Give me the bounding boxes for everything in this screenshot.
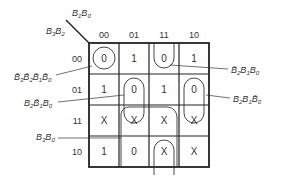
term-b2nb1b0: B2B̄1B0 <box>24 98 53 109</box>
term-b2b1nb0: B2B1B̄0 <box>233 94 262 105</box>
svg-text:0: 0 <box>191 84 197 95</box>
svg-text:X: X <box>131 115 138 126</box>
term-b3b0: B3B0 <box>36 132 55 143</box>
svg-text:00: 00 <box>72 54 82 64</box>
svg-text:0: 0 <box>131 146 137 157</box>
karnaugh-map: B1B0 B3B2 00 01 11 10 00 01 11 10 0 1 0 … <box>0 0 281 180</box>
svg-text:10: 10 <box>189 30 199 40</box>
svg-text:01: 01 <box>72 85 82 95</box>
svg-text:11: 11 <box>159 30 168 40</box>
svg-text:X: X <box>191 115 198 126</box>
svg-text:00: 00 <box>99 30 109 40</box>
column-headers: 00 01 11 10 <box>99 30 199 40</box>
svg-text:X: X <box>101 115 108 126</box>
row-variable-label: B3B2 <box>46 26 65 37</box>
term-nb2b1b0: B̄2B1B0 <box>231 65 260 76</box>
svg-text:0: 0 <box>161 53 167 64</box>
svg-text:0: 0 <box>101 53 107 64</box>
svg-text:10: 10 <box>72 147 82 157</box>
svg-text:11: 11 <box>73 116 82 126</box>
svg-text:01: 01 <box>129 30 139 40</box>
svg-text:X: X <box>191 146 198 157</box>
term-b3b2b1b0: B̄3B̄2B̄1B̄0 <box>14 72 52 83</box>
svg-text:1: 1 <box>161 84 167 95</box>
svg-text:1: 1 <box>191 53 197 64</box>
svg-text:X: X <box>161 115 168 126</box>
svg-text:X: X <box>161 146 168 157</box>
svg-text:1: 1 <box>101 146 107 157</box>
svg-text:1: 1 <box>101 84 107 95</box>
svg-text:1: 1 <box>131 53 137 64</box>
term-labels: B̄3B̄2B̄1B̄0 B̄2B1B0 B2B̄1B0 B2B1B̄0 B3B… <box>14 65 262 143</box>
diagonal-divider <box>66 20 89 43</box>
column-variable-label: B1B0 <box>72 8 91 19</box>
svg-text:0: 0 <box>131 84 137 95</box>
